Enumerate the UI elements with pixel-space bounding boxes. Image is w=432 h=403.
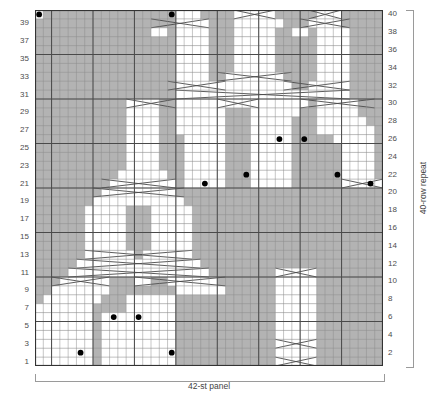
row-label-left-1: 1 bbox=[5, 358, 29, 366]
row-label-left-15: 15 bbox=[5, 233, 29, 241]
chart-grid-svg[interactable] bbox=[35, 10, 383, 366]
knitting-chart: 4038363432302826242220181614121086423937… bbox=[0, 0, 432, 403]
stitch-panel-caption: 42-st panel bbox=[35, 381, 383, 391]
chart-grid[interactable] bbox=[35, 10, 383, 366]
row-label-left-7: 7 bbox=[5, 304, 29, 312]
row-label-left-21: 21 bbox=[5, 180, 29, 188]
row-label-left-3: 3 bbox=[5, 340, 29, 348]
row-label-left-29: 29 bbox=[5, 108, 29, 116]
row-label-left-31: 31 bbox=[5, 91, 29, 99]
row-label-left-35: 35 bbox=[5, 55, 29, 63]
row-repeat-caption: 40-row repeat bbox=[418, 128, 428, 248]
row-label-left-17: 17 bbox=[5, 215, 29, 223]
row-label-left-39: 39 bbox=[5, 19, 29, 27]
row-label-left-19: 19 bbox=[5, 197, 29, 205]
row-label-left-37: 37 bbox=[5, 37, 29, 45]
row-label-left-5: 5 bbox=[5, 322, 29, 330]
row-label-left-25: 25 bbox=[5, 144, 29, 152]
row-label-left-11: 11 bbox=[5, 269, 29, 277]
row-label-left-27: 27 bbox=[5, 126, 29, 134]
row-label-left-33: 33 bbox=[5, 73, 29, 81]
row-label-left-23: 23 bbox=[5, 162, 29, 170]
row-repeat-bracket bbox=[406, 10, 414, 368]
row-label-left-13: 13 bbox=[5, 251, 29, 259]
row-label-left-9: 9 bbox=[5, 286, 29, 294]
